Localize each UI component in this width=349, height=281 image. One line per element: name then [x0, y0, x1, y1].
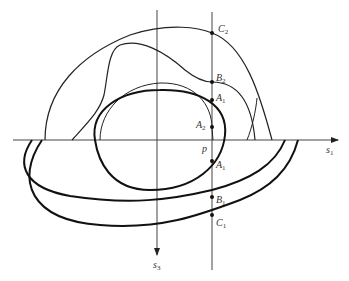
- label-a2: A2: [196, 120, 206, 132]
- curve-b-lower: [24, 140, 285, 201]
- label-b2: B2: [216, 73, 226, 85]
- label-a1-bottom: A1: [216, 160, 226, 172]
- label-s1-axis: s1: [326, 145, 333, 157]
- diagram-svg: [0, 0, 349, 281]
- label-s3-axis: s3: [153, 260, 160, 272]
- label-b1: B1: [216, 195, 226, 207]
- point-b2: [210, 80, 214, 84]
- label-c2: C2: [218, 24, 228, 36]
- point-c2: [210, 31, 214, 35]
- label-p: p: [202, 144, 207, 154]
- point-c1: [210, 213, 214, 217]
- curve-c-lower: [29, 140, 298, 226]
- curve-b-upper: [72, 43, 255, 140]
- point-a1-bottom: [210, 159, 214, 163]
- point-b1: [210, 195, 214, 199]
- diagram-canvas: C2 B2 A1 A2 p A1 B1 C1 s1 s3: [0, 0, 349, 281]
- label-a1-top: A1: [216, 93, 226, 105]
- label-c1: C1: [216, 218, 226, 230]
- point-a2: [210, 125, 214, 129]
- point-a1-top: [210, 98, 214, 102]
